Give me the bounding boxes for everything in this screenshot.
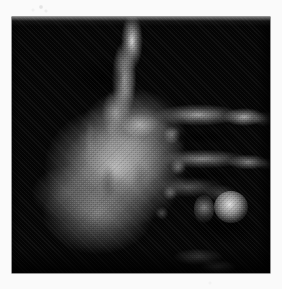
figure-root — [0, 0, 282, 289]
plate-top-flare — [12, 17, 270, 273]
hand-radiograph-image — [12, 17, 270, 273]
figure-caption — [0, 273, 282, 289]
